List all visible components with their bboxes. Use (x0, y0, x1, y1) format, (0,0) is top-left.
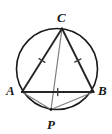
vertex-dot-C (61, 27, 63, 29)
vertex-label-A: A (6, 84, 15, 97)
geometry-figure: C A B P (0, 0, 112, 134)
chord-CP (51, 29, 62, 110)
geometry-canvas (0, 0, 112, 134)
vertex-label-B: B (98, 84, 107, 97)
vertex-label-P: P (47, 118, 55, 131)
vertex-dot-B (92, 91, 94, 93)
vertex-dot-A (21, 91, 23, 93)
chord-PA (22, 92, 51, 110)
vertex-label-C: C (57, 11, 66, 24)
vertex-dot-P (50, 108, 53, 111)
